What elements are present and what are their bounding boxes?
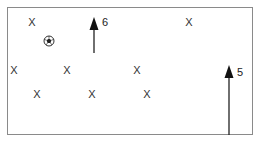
player-marker: X xyxy=(33,89,40,100)
player-marker: X xyxy=(28,17,35,28)
arrow-6-label: 6 xyxy=(102,17,108,28)
soccer-ball-icon xyxy=(44,36,54,46)
player-marker: X xyxy=(185,17,192,28)
player-marker: X xyxy=(10,65,17,76)
arrow-6-icon xyxy=(90,17,99,53)
arrow-5-label: 5 xyxy=(237,67,243,78)
diagram-graphics xyxy=(0,0,260,143)
player-marker: X xyxy=(63,65,70,76)
arrow-5-icon xyxy=(225,65,234,135)
player-marker: X xyxy=(133,65,140,76)
player-marker: X xyxy=(143,89,150,100)
player-marker: X xyxy=(88,89,95,100)
